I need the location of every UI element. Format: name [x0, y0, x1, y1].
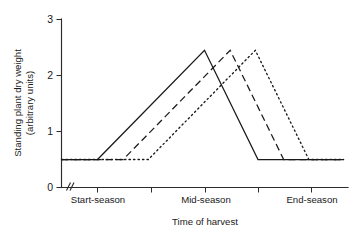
y-tick-label-3: 3 [47, 13, 53, 25]
x-tick-label-mid-season: Mid-season [181, 194, 231, 205]
y-tick-label-0: 0 [47, 181, 53, 193]
x-tick-labels: Start-season Mid-season End-season [71, 194, 338, 205]
y-axis-title-line2: (arbitrary units) [24, 71, 35, 136]
x-tick-label-start-season: Start-season [71, 194, 125, 205]
x-axis-title: Time of harvest [172, 216, 238, 227]
y-tick-label-1: 1 [47, 125, 53, 137]
y-axis-title-line1: Standing plant dry weight [12, 49, 23, 157]
plant-dry-weight-chart: 3 2 1 0 Start-season Mid-season End-seas… [0, 0, 354, 236]
x-tick-label-end-season: End-season [286, 194, 337, 205]
y-tick-label-2: 2 [47, 69, 53, 81]
